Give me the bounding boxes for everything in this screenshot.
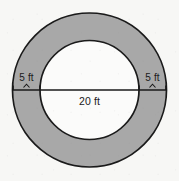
- left-ring-width-label: 5 ft: [19, 72, 33, 83]
- inner-diameter-label: 20 ft: [79, 95, 100, 107]
- right-ring-width-label: 5 ft: [145, 72, 159, 83]
- annulus-svg: 5 ft 5 ft 20 ft: [0, 0, 179, 181]
- annulus-figure: 5 ft 5 ft 20 ft: [0, 0, 179, 181]
